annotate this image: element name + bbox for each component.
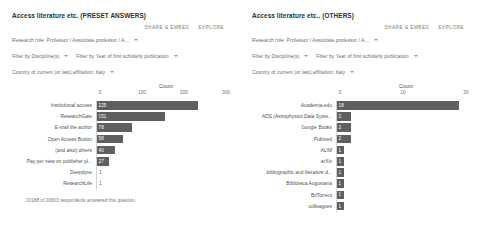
bar-track: 1 (336, 201, 472, 212)
bar-row[interactable]: Open Access Button58 (8, 134, 232, 145)
bar-row[interactable]: ResearchLife1 (8, 178, 232, 189)
bar[interactable]: 78 (97, 123, 132, 132)
bar-track: 1 (96, 167, 232, 178)
bar-track: 78 (96, 122, 232, 133)
bar-category-label: Academia.edu (248, 103, 336, 108)
bar-value-label: 40 (97, 148, 104, 153)
bar-category-label: BitTorrent (248, 193, 336, 198)
bar-row[interactable]: bibliographic and literature d...1 (248, 167, 472, 178)
bar-row[interactable]: Institutional access225 (8, 100, 232, 111)
bar-list: Academia.edu18ADS (Astrophysics Data Sys… (248, 100, 472, 212)
bar[interactable]: 1 (337, 191, 344, 200)
bar[interactable]: 1 (337, 168, 344, 177)
bar-category-label: Biblioteca Augustana (248, 181, 336, 186)
filter-country[interactable]: Country of current (or last) affiliation… (252, 69, 354, 75)
bar[interactable]: 2 (337, 112, 351, 121)
bar-value-label: 1 (337, 170, 341, 175)
bar[interactable]: 151 (97, 112, 165, 121)
share-and-embed-button[interactable]: SHARE & EMBED (385, 25, 430, 30)
bar-row[interactable]: colleagues1 (248, 201, 472, 212)
bar-category-label: Open Access Button (8, 137, 96, 142)
bar[interactable]: 1 (337, 146, 344, 155)
x-axis-ticks: 01020 (340, 90, 466, 98)
bar-row[interactable]: Biblioteca Augustana1 (248, 178, 472, 189)
page-title: Access literature etc.. (OTHERS) (252, 12, 472, 19)
bar-track: 1 (336, 167, 472, 178)
filter-row-discipline-year: Filter by Discipline(s) Filter by Year o… (12, 51, 232, 60)
filter-row-country: Country of current (or last) affiliation… (252, 67, 472, 76)
bar[interactable]: 1 (337, 202, 344, 211)
bar-track: 1 (336, 178, 472, 189)
bar[interactable]: 2 (337, 135, 351, 144)
bar[interactable]: 1 (97, 168, 99, 177)
bar-value-label: 58 (97, 136, 104, 141)
bar-category-label: Pubmed (248, 137, 336, 142)
bar-row[interactable]: ALIM1 (248, 145, 472, 156)
bar[interactable]: 1 (97, 179, 99, 188)
bar-value-label: 2 (337, 136, 341, 141)
bar-row[interactable]: Deepdyve1 (8, 167, 232, 178)
bar-track: 1 (96, 178, 232, 189)
bar-row[interactable]: ADS (Astrophysics Data Syste...2 (248, 111, 472, 122)
bar[interactable]: 1 (337, 179, 344, 188)
filter-discipline[interactable]: Filter by Discipline(s) (252, 53, 308, 59)
bar-row[interactable]: Google Books2 (248, 122, 472, 133)
bar[interactable]: 58 (97, 135, 123, 144)
bar[interactable]: 27 (97, 157, 109, 166)
bar-track: 151 (96, 111, 232, 122)
filter-country[interactable]: Country of current (or last) affiliation… (12, 69, 114, 75)
filter-research-role[interactable]: Research role: Professor / Associate pro… (12, 37, 138, 43)
bar-value-label: 225 (97, 103, 106, 108)
bar-value-label: 1 (337, 204, 341, 209)
filter-discipline[interactable]: Filter by Discipline(s) (12, 53, 68, 59)
filter-row-role: Research role: Professor / Associate pro… (252, 35, 472, 44)
filter-research-role[interactable]: Research role: Professor / Associate pro… (252, 37, 378, 43)
bar-category-label: (and also) others (8, 148, 96, 153)
bar-row[interactable]: (and also) others40 (8, 145, 232, 156)
bar-row[interactable]: ResearchGate151 (8, 111, 232, 122)
filter-row-country: Country of current (or last) affiliation… (12, 67, 232, 76)
chevron-down-icon (414, 55, 418, 57)
bar-track: 225 (96, 100, 232, 111)
bar-value-label: 1 (337, 181, 341, 186)
bar-row[interactable]: E-mail the author78 (8, 122, 232, 133)
bar-track: 2 (336, 122, 472, 133)
panel-divider (240, 0, 241, 247)
bar[interactable]: 225 (97, 101, 198, 110)
bar-row[interactable]: Academia.edu18 (248, 100, 472, 111)
bar-row[interactable]: Pay per view on publisher pl...27 (8, 156, 232, 167)
filter-bar: Research role: Professor / Associate pro… (252, 35, 472, 76)
x-axis-title: Count (340, 83, 472, 89)
bar-track: 27 (96, 156, 232, 167)
filter-year[interactable]: Filter by Year of first scholarly public… (316, 53, 417, 59)
panel-actions: SHARE & EMBED EXPLORE (8, 25, 224, 30)
bar-value-label: 1 (337, 159, 341, 164)
bar-list: Institutional access225ResearchGate151E-… (8, 100, 232, 190)
page-title: Access literature etc. (PRESET ANSWERS) (12, 12, 232, 19)
bar-row[interactable]: BitTorrent1 (248, 190, 472, 201)
bar[interactable]: 40 (97, 146, 115, 155)
chevron-down-icon (350, 71, 354, 73)
bar[interactable]: 18 (337, 101, 459, 110)
x-axis-tick: 300 (222, 90, 230, 95)
share-and-embed-button[interactable]: SHARE & EMBED (145, 25, 190, 30)
bar-row[interactable]: Pubmed2 (248, 134, 472, 145)
bar-value-label: 151 (97, 114, 106, 119)
explore-button[interactable]: EXPLORE (438, 25, 464, 30)
bar-category-label: colleagues (248, 204, 336, 209)
bar-row[interactable]: arXiv1 (248, 156, 472, 167)
bar-value-label: 1 (337, 192, 341, 197)
filter-year[interactable]: Filter by Year of first scholarly public… (76, 53, 177, 59)
x-axis-tick: 20 (463, 90, 468, 95)
bar[interactable]: 2 (337, 123, 351, 132)
x-axis-tick: 100 (138, 90, 146, 95)
filter-row-discipline-year: Filter by Discipline(s) Filter by Year o… (252, 51, 472, 60)
explore-button[interactable]: EXPLORE (198, 25, 224, 30)
bar[interactable]: 1 (337, 157, 344, 166)
bar-category-label: Google Books (248, 125, 336, 130)
bar-category-label: ADS (Astrophysics Data Syste... (248, 114, 336, 119)
bar-track: 58 (96, 134, 232, 145)
bar-track: 2 (336, 111, 472, 122)
bar-track: 1 (336, 145, 472, 156)
x-axis-title: Count (100, 83, 232, 89)
